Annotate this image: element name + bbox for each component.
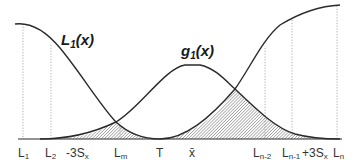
axis-label-T: T [156, 146, 164, 160]
axis-label-Ln: Ln [333, 146, 344, 161]
axis-label-xbar: x̄ [189, 146, 195, 160]
axis-label-Ln-2: Ln-2 [253, 146, 272, 161]
axis-label-Lm: Lm [114, 146, 128, 161]
curve-label-g1: g1(x) [180, 42, 214, 61]
axis-label-Ln-1: Ln-1 [282, 146, 301, 161]
curve-L1 [15, 5, 340, 139]
axis-label-minus-3sx: -3Sx [66, 146, 89, 161]
axis-label-plus-3sx: +3Sx [302, 146, 328, 161]
axis-label-L2: L2 [45, 146, 57, 161]
axis-label-L1: L1 [18, 146, 30, 161]
curve-label-L1: L1(x) [61, 31, 94, 50]
loss-distribution-diagram: L1(x) g1(x) L1 L2 -3Sx Lm T x̄ Ln-2 Ln-1… [0, 0, 362, 164]
curve-g1 [40, 65, 340, 139]
